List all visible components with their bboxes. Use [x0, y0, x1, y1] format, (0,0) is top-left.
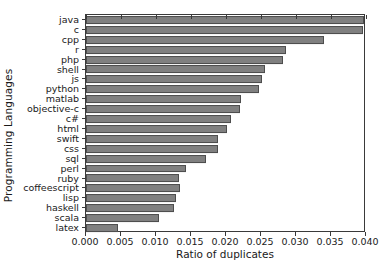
- x-axis-title: Ratio of duplicates: [85, 248, 365, 260]
- bar-row: [86, 174, 364, 184]
- x-tick-label-0.005: 0.005: [106, 236, 133, 247]
- x-tick-mark: [85, 232, 86, 236]
- bar-row: [86, 104, 364, 114]
- x-tick-mark: [225, 232, 226, 236]
- bar-row: [86, 84, 364, 94]
- y-axis-tick-labels: javaccpprphpshelljspythonmatlabobjective…: [0, 14, 82, 232]
- bar-cpp: [86, 36, 324, 44]
- x-tick-mark-top: [86, 15, 87, 19]
- bar-row: [86, 15, 364, 25]
- plot-area: [85, 14, 365, 232]
- bar-php: [86, 56, 283, 64]
- x-tick-mark: [190, 232, 191, 236]
- bar-html: [86, 125, 227, 133]
- bar-row: [86, 45, 364, 55]
- y-tick-label-latex: latex: [56, 222, 80, 233]
- bar-row: [86, 124, 364, 134]
- bar-row: [86, 183, 364, 193]
- x-tick-mark-top: [156, 15, 157, 19]
- bar-scala: [86, 214, 159, 222]
- bar-row: [86, 55, 364, 65]
- x-tick-mark: [120, 232, 121, 236]
- x-tick-label-0.010: 0.010: [141, 236, 168, 247]
- bar-shell: [86, 66, 265, 74]
- bar-haskell: [86, 204, 174, 212]
- x-tick-mark-top: [261, 15, 262, 19]
- bar-row: [86, 144, 364, 154]
- bar-coffeescript: [86, 184, 180, 192]
- x-tick-label-0.000: 0.000: [71, 236, 98, 247]
- bar-matlab: [86, 95, 241, 103]
- bar-row: [86, 94, 364, 104]
- bar-c: [86, 26, 363, 34]
- x-tick-mark-top: [226, 15, 227, 19]
- x-tick-mark-top: [121, 15, 122, 19]
- bar-row: [86, 213, 364, 223]
- bar-swift: [86, 135, 218, 143]
- bar-row: [86, 203, 364, 213]
- x-tick-label-0.040: 0.040: [351, 236, 378, 247]
- x-tick-label-0.035: 0.035: [316, 236, 343, 247]
- bar-row: [86, 193, 364, 203]
- bar-row: [86, 164, 364, 174]
- bar-lisp: [86, 194, 176, 202]
- bar-chart-figure: Programming Languages javaccpprphpshellj…: [0, 0, 385, 271]
- x-tick-mark: [155, 232, 156, 236]
- bar-row: [86, 134, 364, 144]
- x-tick-mark-top: [296, 15, 297, 19]
- x-tick-label-0.020: 0.020: [211, 236, 238, 247]
- bar-row: [86, 74, 364, 84]
- x-tick-mark-top: [191, 15, 192, 19]
- bar-r: [86, 46, 286, 54]
- bar-row: [86, 154, 364, 164]
- x-tick-mark-top: [366, 15, 367, 19]
- x-tick-mark-top: [331, 15, 332, 19]
- bar-ruby: [86, 174, 179, 182]
- bar-css: [86, 145, 218, 153]
- bar-sql: [86, 155, 206, 163]
- bar-python: [86, 85, 259, 93]
- x-tick-label-0.025: 0.025: [246, 236, 273, 247]
- x-tick-mark: [260, 232, 261, 236]
- bar-java: [86, 16, 364, 24]
- bar-row: [86, 114, 364, 124]
- bar-row: [86, 65, 364, 75]
- x-tick-mark: [330, 232, 331, 236]
- bar-js: [86, 75, 262, 83]
- bar-perl: [86, 165, 186, 173]
- x-tick-label-0.030: 0.030: [281, 236, 308, 247]
- bar-row: [86, 35, 364, 45]
- bar-c-: [86, 115, 231, 123]
- x-tick-label-0.015: 0.015: [176, 236, 203, 247]
- x-tick-mark: [295, 232, 296, 236]
- bar-series: [86, 15, 364, 231]
- x-tick-mark: [365, 232, 366, 236]
- bar-objective-c: [86, 105, 240, 113]
- bar-latex: [86, 224, 118, 232]
- bar-row: [86, 25, 364, 35]
